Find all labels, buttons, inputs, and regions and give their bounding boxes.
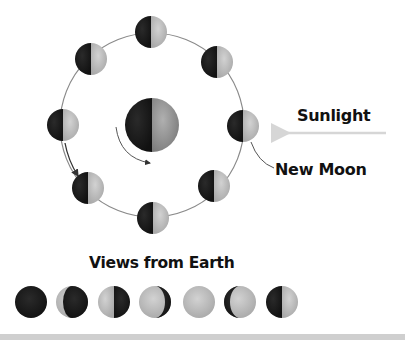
view-phase-quarter-right-lit (266, 286, 298, 318)
orbit-moon-left (47, 109, 79, 141)
orbit-moon-top (135, 16, 167, 48)
moon-phases-diagram: Sunlight New Moon Views from Earth (0, 0, 405, 340)
orbit-moon-upper-left (75, 43, 107, 75)
orbit-moon-bottom (137, 202, 169, 234)
view-phase-gibbous-left-lit (139, 286, 171, 318)
view-phase-gibbous-right-lit (224, 286, 256, 318)
new-moon-pointer (251, 142, 274, 168)
view-phase-quarter-left-lit (98, 286, 130, 318)
orbit-moon-lower-left (72, 172, 104, 204)
view-phase-crescent (56, 286, 88, 318)
orbit-moon-upper-right (201, 46, 233, 78)
views-from-earth-heading: Views from Earth (89, 254, 234, 272)
earth (125, 98, 179, 152)
orbit-moon-lower-right (198, 170, 230, 202)
view-phase-full (183, 286, 215, 318)
view-phase-new (15, 286, 47, 318)
bottom-divider-bar (0, 334, 405, 340)
sunlight-label: Sunlight (297, 106, 370, 125)
new-moon-label: New Moon (275, 160, 367, 179)
orbit-moon-right-new-moon (227, 110, 259, 142)
